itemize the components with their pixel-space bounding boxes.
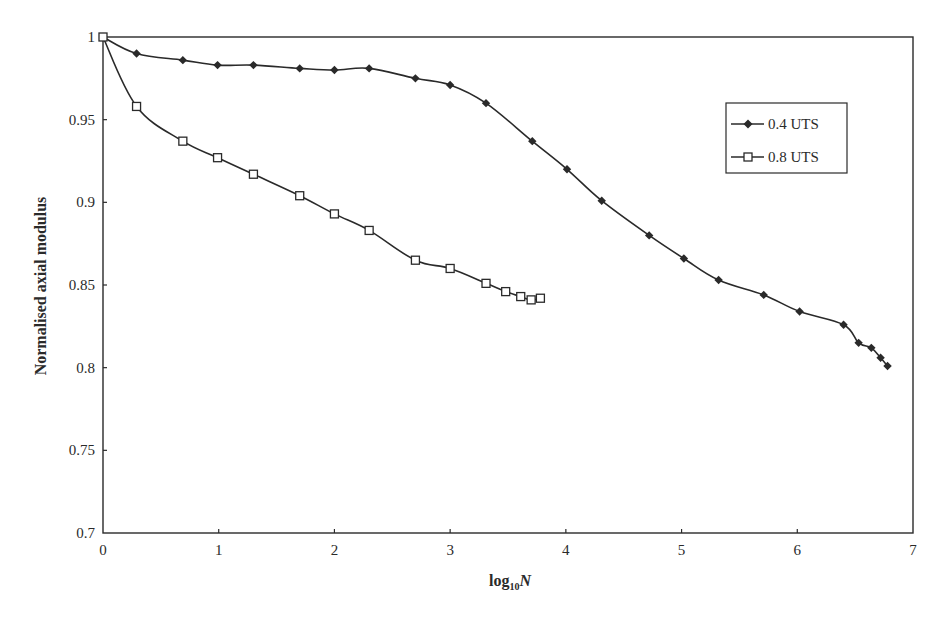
open-square-marker — [411, 256, 419, 264]
y-tick-label: 1 — [88, 29, 96, 45]
filled-diamond-marker — [179, 56, 187, 64]
x-tick-label: 0 — [99, 542, 107, 558]
y-axis-label: Normalised axial modulus — [32, 197, 49, 376]
open-square-marker — [249, 170, 257, 178]
legend: 0.4 UTS 0.8 UTS — [726, 103, 847, 173]
open-square-marker — [517, 293, 525, 301]
filled-diamond-marker — [365, 64, 373, 72]
open-square-marker — [179, 137, 187, 145]
filled-diamond-marker — [714, 276, 722, 284]
open-square-marker — [446, 264, 454, 272]
filled-diamond-marker — [249, 61, 257, 69]
y-tick-label: 0.85 — [69, 277, 95, 293]
series-0-8-uts — [99, 33, 544, 304]
x-axis-label-main: log — [489, 572, 509, 590]
x-tick-label: 4 — [562, 542, 570, 558]
x-tick-label: 7 — [909, 542, 917, 558]
series-layer — [99, 33, 892, 370]
open-square-marker — [365, 226, 373, 234]
series-0-4-uts — [99, 33, 892, 370]
open-square-marker — [296, 192, 304, 200]
filled-diamond-marker — [213, 61, 221, 69]
legend-label-0-8-uts: 0.8 UTS — [768, 149, 819, 165]
open-square-marker — [536, 294, 544, 302]
y-axis-ticks: 0.70.750.80.850.90.951 — [69, 29, 107, 541]
filled-diamond-marker — [132, 49, 140, 57]
x-axis-label-variable: N — [518, 572, 532, 589]
filled-diamond-marker — [411, 74, 419, 82]
x-tick-label: 1 — [215, 542, 223, 558]
x-axis-label-subscript: 10 — [509, 581, 519, 592]
open-square-marker — [214, 154, 222, 162]
legend-label-0-4-uts: 0.4 UTS — [768, 116, 819, 132]
filled-diamond-marker — [760, 291, 768, 299]
open-square-marker — [99, 33, 107, 41]
filled-diamond-marker — [839, 320, 847, 328]
filled-diamond-marker — [296, 64, 304, 72]
x-tick-label: 2 — [331, 542, 339, 558]
series-line — [103, 37, 540, 300]
open-square-icon — [744, 153, 752, 161]
y-tick-label: 0.9 — [76, 194, 95, 210]
x-tick-label: 3 — [446, 542, 454, 558]
filled-diamond-marker — [330, 66, 338, 74]
y-tick-label: 0.95 — [69, 112, 95, 128]
open-square-marker — [502, 288, 510, 296]
y-tick-label: 0.7 — [76, 525, 95, 541]
y-tick-label: 0.75 — [69, 442, 95, 458]
x-tick-label: 5 — [678, 542, 686, 558]
filled-diamond-marker — [795, 307, 803, 315]
x-axis-label: log10N — [489, 572, 532, 592]
open-square-marker — [330, 210, 338, 218]
open-square-marker — [527, 296, 535, 304]
open-square-marker — [482, 279, 490, 287]
open-square-marker — [133, 102, 141, 110]
filled-diamond-marker — [446, 81, 454, 89]
series-line — [103, 37, 888, 366]
x-tick-label: 6 — [794, 542, 802, 558]
filled-diamond-marker — [680, 254, 688, 262]
y-tick-label: 0.8 — [76, 360, 95, 376]
chart: 01234567 0.70.750.80.850.90.951 Normalis… — [0, 0, 939, 621]
